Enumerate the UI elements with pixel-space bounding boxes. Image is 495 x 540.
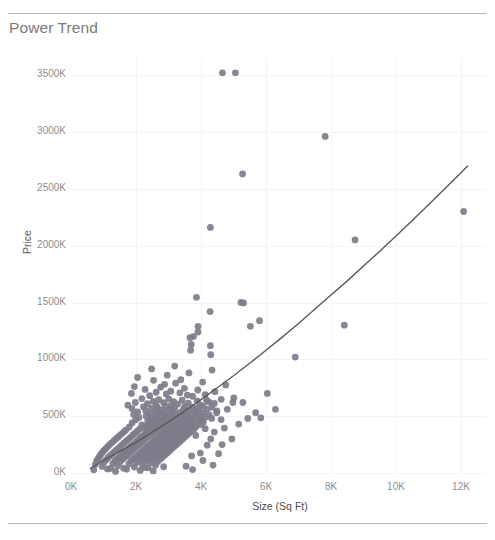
- data-point: [189, 466, 196, 473]
- data-point: [186, 370, 193, 377]
- data-point: [142, 386, 149, 393]
- data-point: [244, 415, 251, 422]
- data-point: [157, 384, 164, 391]
- data-point: [207, 224, 214, 231]
- data-point: [209, 367, 216, 374]
- data-point: [172, 380, 179, 387]
- data-point: [150, 377, 157, 384]
- data-point: [256, 317, 263, 324]
- data-point: [150, 468, 157, 475]
- data-point: [171, 363, 178, 370]
- data-point: [219, 69, 226, 76]
- data-point: [176, 389, 183, 396]
- data-point: [352, 237, 359, 244]
- data-point: [252, 409, 259, 416]
- data-point: [322, 133, 329, 140]
- data-point: [200, 457, 207, 464]
- bottom-divider: [8, 523, 487, 524]
- data-point: [148, 366, 155, 373]
- data-point: [112, 468, 119, 475]
- data-point: [153, 389, 160, 396]
- data-point: [131, 464, 138, 471]
- data-point: [272, 406, 279, 413]
- data-point: [146, 392, 153, 399]
- scatter-plot: 0K500K1000K1500K2000K2500K3000K3500K 0K2…: [0, 0, 495, 540]
- chart-card: Power Trend 0K500K1000K1500K2000K2500K30…: [0, 0, 495, 540]
- data-point: [235, 421, 242, 428]
- data-point: [240, 300, 247, 307]
- data-point: [160, 463, 167, 470]
- data-point: [207, 308, 214, 315]
- data-point: [207, 351, 214, 358]
- data-point: [197, 450, 204, 457]
- data-point: [128, 390, 135, 397]
- data-point: [257, 414, 264, 421]
- data-point: [211, 429, 218, 436]
- data-point: [188, 453, 195, 460]
- data-point: [202, 425, 209, 432]
- data-point: [292, 354, 299, 361]
- data-point: [247, 323, 254, 330]
- data-point: [141, 464, 148, 471]
- data-point: [207, 342, 214, 349]
- data-points: [90, 69, 467, 474]
- data-point: [219, 441, 226, 448]
- data-point: [138, 395, 145, 402]
- data-point: [229, 399, 236, 406]
- data-point: [104, 466, 111, 473]
- data-point: [131, 383, 138, 390]
- data-point: [232, 69, 239, 76]
- data-point: [204, 442, 211, 449]
- data-point: [187, 334, 194, 341]
- data-point: [240, 399, 247, 406]
- data-point: [164, 372, 171, 379]
- data-point: [187, 347, 194, 354]
- data-point: [264, 390, 271, 397]
- data-point: [132, 399, 139, 406]
- data-point: [228, 435, 235, 442]
- data-point: [208, 415, 215, 422]
- data-point: [194, 387, 201, 394]
- data-point: [221, 425, 228, 432]
- data-point: [207, 435, 214, 442]
- scatter-canvas: [0, 0, 495, 540]
- data-point: [239, 171, 246, 178]
- data-point: [134, 374, 141, 381]
- data-point: [193, 294, 200, 301]
- data-point: [192, 432, 199, 439]
- data-point: [460, 208, 467, 215]
- data-point: [210, 462, 217, 469]
- data-point: [120, 465, 127, 472]
- data-point: [199, 379, 206, 386]
- data-point: [224, 406, 231, 413]
- data-point: [218, 396, 225, 403]
- data-point: [341, 322, 348, 329]
- data-point: [183, 463, 190, 470]
- data-point: [215, 450, 222, 457]
- data-point: [218, 416, 225, 423]
- data-point: [213, 409, 220, 416]
